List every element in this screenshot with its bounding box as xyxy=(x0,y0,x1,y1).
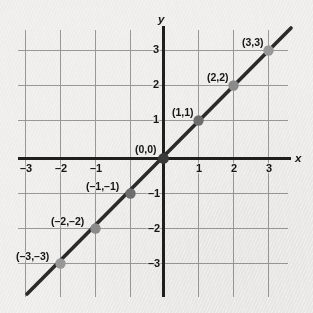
x-tick--1: –1 xyxy=(90,163,102,174)
point-label--2--2: (–2,–2) xyxy=(51,216,84,227)
point-pos2 xyxy=(228,80,238,90)
point-label-3-3: (3,3) xyxy=(242,37,264,48)
point-label-0-0: (0,0) xyxy=(135,144,157,155)
x-tick--3: –3 xyxy=(20,163,32,174)
point-pos1 xyxy=(193,115,203,125)
point-neg2 xyxy=(90,223,100,233)
y-tick--1: –1 xyxy=(148,188,160,199)
x-tick-1: 1 xyxy=(196,163,202,174)
point-label-2-2: (2,2) xyxy=(207,72,229,83)
axis-label-y: y xyxy=(158,14,164,26)
point-pos3 xyxy=(263,45,273,55)
y-tick-3: 3 xyxy=(153,44,159,55)
point-neg1 xyxy=(125,188,135,198)
y-tick-1: 1 xyxy=(153,114,159,125)
point-label-1-1: (1,1) xyxy=(172,107,194,118)
x-tick--2: –2 xyxy=(55,163,67,174)
axis-label-x: x xyxy=(295,153,301,165)
point-label--3--3: (–3,–3) xyxy=(16,251,49,262)
x-tick-2: 2 xyxy=(231,163,237,174)
point-label--1--1: (–1,–1) xyxy=(86,181,119,192)
x-tick-3: 3 xyxy=(266,163,272,174)
y-tick-2: 2 xyxy=(153,79,159,90)
y-tick--2: –2 xyxy=(148,223,160,234)
y-tick--3: –3 xyxy=(148,258,160,269)
point-origin xyxy=(158,153,169,164)
coordinate-plane-figure: y x –3 –2 –1 1 2 3 3 2 1 –1 –2 –3 (–3,–3… xyxy=(0,0,313,313)
point-neg3 xyxy=(55,258,65,268)
